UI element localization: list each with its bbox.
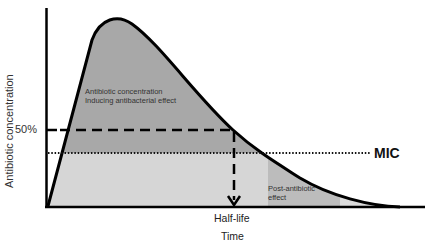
pharmacokinetic-diagram [0,0,435,243]
x-axis-label: Time [221,230,244,242]
mic-label: MIC [374,145,400,161]
region-effect-line2: Inducing antibacterial effect [85,96,176,105]
post-antibiotic-label: Post-antibiotic effect [268,184,315,202]
y-axis-label: Antibiotic concentration [3,74,15,188]
tick-label-50pct: 50% [15,123,37,135]
halflife-label: Half-life [214,212,250,224]
region-effect-line1: Antibiotic concentration [85,87,176,96]
post-antibiotic-line1: Post-antibiotic [268,184,315,193]
post-antibiotic-line2: effect [268,193,315,202]
region-effect-label: Antibiotic concentration Inducing antiba… [85,87,176,105]
